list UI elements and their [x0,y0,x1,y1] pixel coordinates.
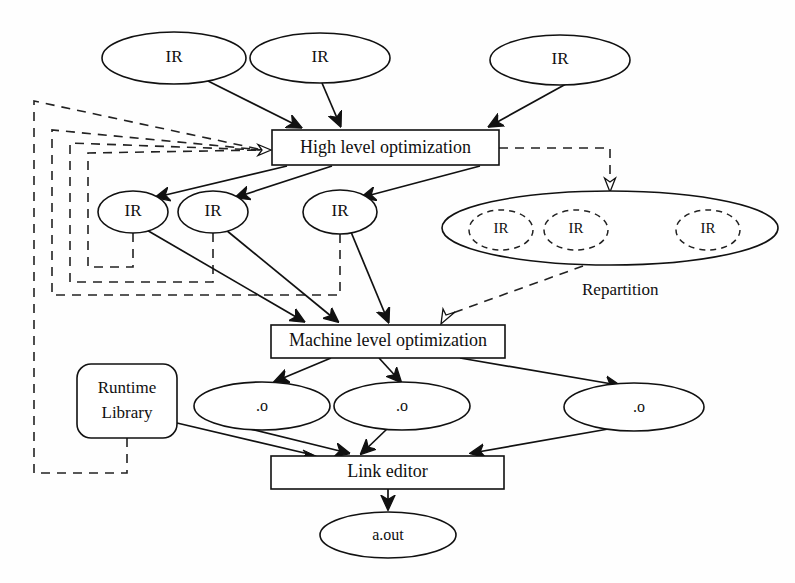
edge-high-level-to-ir-mid-2 [237,166,332,197]
node-ir-mid-2[interactable]: IR [178,191,248,233]
node-obj-2[interactable]: .o [334,382,470,430]
link-editor-label: Link editor [347,461,427,481]
obj-3-label: .o [633,398,645,415]
high-level-optimization-label: High level optimization [300,137,471,157]
node-repartition-group[interactable]: IR IR IR Repartition [442,191,778,299]
runtime-library-box[interactable] [77,364,177,438]
edge-machine-level-to-obj-3 [460,358,618,385]
node-link-editor[interactable]: Link editor [271,456,504,489]
runtime-library-label-line1: Runtime [98,378,157,397]
edge-ir-top-2-to-high-level [322,83,340,125]
mid-ir-group: IR IR IR [98,190,377,234]
edge-ir-mid-2-to-machine-level [226,230,337,321]
node-ir-top-1[interactable]: IR [102,32,246,84]
runtime-library-label-line2: Library [102,403,153,422]
node-machine-level-optimization[interactable]: Machine level optimization [271,325,505,358]
edge-obj-1-to-link-editor [242,427,348,453]
edge-high-level-to-ir-mid-3 [363,166,480,197]
compiler-flow-diagram: IR IR IR High level optimization IR [0,0,795,583]
ir-part-3-label: IR [701,220,716,236]
node-a-out[interactable]: a.out [320,512,456,558]
edge-ir-top-1-to-high-level [206,80,300,127]
edge-repartition-to-machine-level [447,266,583,315]
ir-top-2-label: IR [312,47,330,66]
top-ir-group: IR IR IR [102,32,630,85]
edge-obj-3-to-link-editor [472,428,614,453]
obj-2-label: .o [396,397,408,414]
repartition-outer-ellipse[interactable] [442,191,778,265]
node-ir-top-2[interactable]: IR [250,33,390,83]
ir-top-1-label: IR [166,47,184,66]
node-ir-mid-1[interactable]: IR [98,191,168,233]
repartition-caption: Repartition [582,280,659,299]
node-obj-1[interactable]: .o [194,382,330,430]
node-ir-top-3[interactable]: IR [490,35,630,85]
obj-1-label: .o [256,397,268,414]
edge-machine-level-to-obj-1 [276,358,331,381]
node-high-level-optimization[interactable]: High level optimization [272,130,499,165]
hollow-arrow-machine-level-icon [441,309,455,324]
edge-ir-top-3-to-high-level [490,84,566,126]
ir-mid-2-label: IR [205,201,223,220]
node-runtime-library[interactable]: Runtime Library [77,364,177,438]
edge-machine-level-to-obj-2 [379,358,400,381]
diagram-canvas: IR IR IR High level optimization IR [0,0,795,583]
edge-ir-mid-3-to-machine-level [351,232,388,321]
ir-mid-1-label: IR [125,201,143,220]
edge-ir-mid-1-to-machine-level [145,229,303,321]
a-out-label: a.out [372,526,404,543]
ir-part-2-label: IR [569,220,584,236]
ir-top-3-label: IR [552,49,570,68]
ir-mid-3-label: IR [332,201,350,220]
edge-high-level-to-repartition [499,148,610,178]
edge-obj-2-to-link-editor [362,428,388,453]
ir-part-1-label: IR [494,220,509,236]
node-ir-mid-3[interactable]: IR [303,190,377,234]
machine-level-optimization-label: Machine level optimization [289,330,487,350]
node-obj-3[interactable]: .o [564,383,704,431]
hollow-arrow-repartition-icon [605,178,616,192]
object-files-group: .o .o .o [194,382,704,431]
